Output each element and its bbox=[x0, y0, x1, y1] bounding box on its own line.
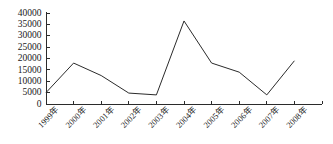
y-tick-label: 10000 bbox=[18, 76, 42, 86]
x-tick-label: 2008年 bbox=[284, 104, 309, 129]
y-tick-label: 40000 bbox=[18, 8, 42, 18]
y-tick-label: 20000 bbox=[18, 53, 42, 63]
x-tick-label: 2000年 bbox=[63, 104, 88, 129]
y-tick-label: 15000 bbox=[18, 65, 42, 75]
x-tick-label: 2006年 bbox=[229, 104, 254, 129]
x-tick-label: 2004年 bbox=[174, 104, 199, 129]
y-tick-label: 25000 bbox=[18, 42, 42, 52]
x-tick-label: 2003年 bbox=[146, 104, 171, 129]
data-series-line bbox=[46, 21, 294, 95]
y-tick-label: 30000 bbox=[18, 30, 42, 40]
y-tick-label: 0 bbox=[37, 99, 42, 109]
x-tick-label: 2002年 bbox=[119, 104, 144, 129]
y-tick-label: 35000 bbox=[18, 19, 42, 29]
x-tick-label: 2001年 bbox=[91, 104, 116, 129]
chart-canvas: 0500010000150002000025000300003500040000… bbox=[0, 0, 333, 144]
line-chart: 0500010000150002000025000300003500040000… bbox=[0, 0, 333, 144]
x-tick-label: 2007年 bbox=[257, 104, 282, 129]
y-tick-label: 5000 bbox=[23, 87, 42, 97]
x-tick-label: 2005年 bbox=[201, 104, 226, 129]
